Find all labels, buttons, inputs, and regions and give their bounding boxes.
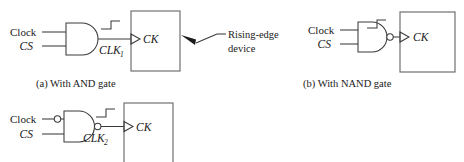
panel-b-ck-dynamic-indicator-icon	[400, 32, 409, 42]
panel-b-output-inversion-bubble-icon	[387, 34, 393, 40]
panel-a-output-label: CLK	[99, 44, 122, 56]
panel-a-and-gate-symbol	[66, 23, 98, 55]
panel-c-output-label: CLK	[83, 132, 106, 144]
panel-c: Clock CS CLK 2 CK	[10, 103, 173, 162]
panel-c-output-label-subscript: 2	[104, 138, 108, 147]
panel-a: Clock CS CLK 1 CK Rising-edge device (a)…	[10, 11, 279, 90]
panel-a-ck-dynamic-indicator-icon	[131, 34, 140, 44]
panel-b-nand-gate-symbol	[358, 22, 387, 52]
figure-root: Clock CS CLK 1 CK Rising-edge device (a)…	[0, 0, 464, 162]
panel-a-annotation-line2: device	[228, 43, 256, 54]
panel-a-annotation-line1: Rising-edge	[228, 29, 279, 40]
panel-a-input-clock-label: Clock	[10, 26, 37, 38]
panel-a-annotation-leader	[196, 34, 217, 43]
panel-b-caption: (b) With NAND gate	[303, 78, 392, 90]
panel-b-ck-port-label: CK	[413, 31, 430, 43]
panel-c-ck-dynamic-indicator-icon	[124, 122, 133, 132]
clock-gating-figure-svg: Clock CS CLK 1 CK Rising-edge device (a)…	[0, 0, 464, 162]
panel-c-rising-edge-waveform-icon	[96, 109, 115, 117]
panel-a-output-label-subscript: 1	[120, 50, 124, 59]
panel-a-caption: (a) With AND gate	[36, 78, 116, 90]
panel-c-input-clock-label: Clock	[10, 113, 37, 125]
panel-b: Clock CS CK (b) With NAND gate	[303, 12, 455, 90]
panel-b-input-cs-label: CS	[318, 38, 332, 50]
panel-a-input-cs-label: CS	[20, 40, 34, 52]
panel-c-ck-port-label: CK	[136, 121, 153, 133]
panel-c-clock-input-inversion-bubble-icon	[54, 116, 60, 122]
panel-c-input-cs-label: CS	[20, 128, 34, 140]
panel-a-ck-port-label: CK	[143, 33, 160, 45]
panel-c-output-inversion-bubble-icon	[95, 123, 101, 129]
panel-a-rising-edge-waveform-icon	[101, 21, 120, 29]
panel-b-input-clock-label: Clock	[308, 24, 335, 36]
panel-a-annotation-arrowhead-icon	[181, 35, 196, 45]
